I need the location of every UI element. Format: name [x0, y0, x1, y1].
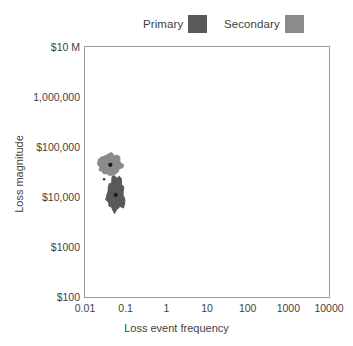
- loss-exceedance-scatter-chart: Primary Secondary $10 M1,000,000$100,000…: [0, 0, 353, 346]
- data-cloud-center-secondary: [108, 163, 112, 167]
- x-axis-title: Loss event frequency: [0, 322, 353, 334]
- plot-area: [84, 46, 330, 298]
- outlier-speck: [103, 178, 106, 181]
- x-tick-label: 10000: [314, 302, 343, 314]
- data-point-cloud-layer: [85, 47, 329, 297]
- x-tick-label: 1: [163, 302, 169, 314]
- x-tick-label: 100: [239, 302, 257, 314]
- x-tick-label: 0.1: [118, 302, 133, 314]
- y-axis-title: Loss magnitude: [13, 109, 25, 239]
- x-tick-label: 10: [201, 302, 213, 314]
- data-cloud-center-primary: [114, 193, 118, 197]
- x-tick-label: 1000: [277, 302, 300, 314]
- x-tick-label: 0.01: [75, 302, 95, 314]
